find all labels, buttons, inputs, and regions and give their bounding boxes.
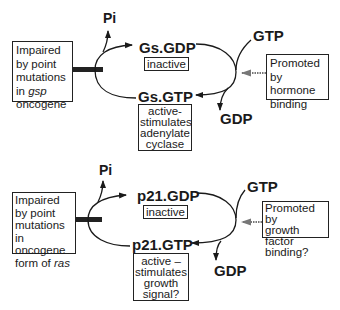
active-box-top: active- stimulates adenylate cyclase xyxy=(138,104,192,151)
pi-branch-top xyxy=(103,31,108,52)
inhibition-bar-top xyxy=(72,67,103,72)
impaired-line-1: Impaired xyxy=(16,44,69,58)
impaired-line-5: oncogene xyxy=(16,98,69,112)
impaired-line-3: mutations xyxy=(16,71,69,85)
gs-gdp-label: Gs.GDP xyxy=(139,40,196,55)
active-line-4: signal? xyxy=(135,289,187,300)
impaired-box-top: Impaired by point mutations in gsp oncog… xyxy=(12,41,73,102)
impaired-line-2: by point xyxy=(15,207,73,220)
impaired-line-4: in gsp xyxy=(16,85,69,99)
pi-label-top: Pi xyxy=(103,11,116,25)
impaired-line-3: mutations xyxy=(15,219,73,232)
impaired-box-bottom: Impaired by point mutations in oncogene … xyxy=(12,192,76,254)
p21-gdp-label: p21.GDP xyxy=(137,188,200,203)
active-line-4: cyclase xyxy=(140,139,190,150)
gdp-out-label-bottom: GDP xyxy=(214,263,247,278)
exchange-arc-top xyxy=(196,44,236,95)
impaired-line-4-prefix: in xyxy=(16,85,28,97)
impaired-line-1: Impaired xyxy=(15,194,73,207)
active-box-bottom: active – stimulates growth signal? xyxy=(133,253,189,301)
promoted-box-top: Promoted by hormone binding xyxy=(266,54,329,100)
promoted-line-3: binding xyxy=(270,98,325,112)
promoted-line-1: Promoted by xyxy=(265,203,326,225)
promoted-line-2: growth factor xyxy=(265,225,326,247)
impaired-line-5: form of ras xyxy=(15,257,73,270)
impaired-line-4: in oncogene xyxy=(15,232,73,257)
impaired-line-2: by point xyxy=(16,58,69,72)
gtp-in-top xyxy=(236,40,251,70)
promoted-line-1: Promoted xyxy=(270,57,325,71)
pi-label-bottom: Pi xyxy=(99,163,112,177)
p21-gtp-label: p21.GTP xyxy=(132,237,193,252)
gdp-out-label-top: GDP xyxy=(220,111,253,126)
gtp-in-bottom xyxy=(236,190,245,218)
gdp-out-bottom xyxy=(216,241,221,260)
impaired-line-5-prefix: form of xyxy=(15,257,54,269)
pi-branch-bottom xyxy=(98,181,103,202)
promoted-line-3: binding? xyxy=(265,247,326,258)
inactive-badge-top: inactive xyxy=(144,57,189,71)
promoted-box-bottom: Promoted by growth factor binding? xyxy=(262,201,329,238)
inactive-badge-bottom: inactive xyxy=(143,205,188,219)
gtp-in-label-bottom: GTP xyxy=(247,179,278,194)
gs-gtp-label: Gs.GTP xyxy=(138,89,193,104)
promoted-line-2: by hormone xyxy=(270,71,325,98)
gene-name-ras: ras xyxy=(54,257,70,269)
gene-name-gsp: gsp xyxy=(28,85,47,97)
gtp-in-label-top: GTP xyxy=(253,28,284,43)
